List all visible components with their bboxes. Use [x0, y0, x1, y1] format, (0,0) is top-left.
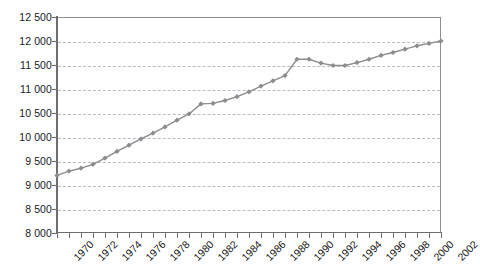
x-axis-tick-label: 1992: [335, 238, 360, 263]
y-axis-tick-label: 8 500: [25, 203, 52, 215]
x-axis-tick-label: 1988: [287, 238, 312, 263]
x-axis-tick-label: 1978: [167, 238, 192, 263]
x-axis-tick-label: 1974: [119, 238, 144, 263]
x-axis-tick-label: 1982: [215, 238, 240, 263]
x-axis-tick-label: 1970: [71, 238, 96, 263]
x-axis-tick-label: 2002: [455, 238, 480, 263]
data-point-marker: [150, 131, 155, 136]
y-axis-labels: 8 0008 5009 0009 50010 00010 50011 00011…: [0, 17, 52, 233]
series-markers: [54, 38, 443, 178]
x-axis-tick-label: 1986: [263, 238, 288, 263]
data-point-marker: [138, 136, 143, 141]
data-point-marker: [258, 84, 263, 89]
data-point-marker: [390, 50, 395, 55]
data-point-marker: [414, 43, 419, 48]
y-axis-tick-label: 9 000: [25, 179, 52, 191]
data-point-marker: [234, 94, 239, 99]
data-point-marker: [246, 89, 251, 94]
y-axis-tick-label: 11 000: [20, 83, 52, 95]
data-point-marker: [342, 63, 347, 68]
x-axis-tick-label: 1980: [191, 238, 216, 263]
x-axis-tick-label: 1990: [311, 238, 336, 263]
x-axis-tick-label: 1976: [143, 238, 168, 263]
data-point-marker: [426, 41, 431, 46]
x-axis-tick-label: 1984: [239, 238, 264, 263]
data-point-marker: [270, 78, 275, 83]
y-axis-tick-label: 9 500: [25, 155, 52, 167]
y-axis-tick-label: 10 000: [19, 131, 52, 143]
data-point-marker: [66, 168, 71, 173]
x-axis-tick-label: 1996: [383, 238, 408, 263]
data-point-marker: [222, 98, 227, 103]
data-point-marker: [402, 47, 407, 52]
series-line: [57, 41, 441, 175]
data-point-marker: [378, 53, 383, 58]
data-point-marker: [438, 38, 443, 43]
data-point-marker: [306, 57, 311, 62]
x-axis-tick-label: 1998: [407, 238, 432, 263]
y-axis-tick-label: 10 500: [19, 107, 52, 119]
data-series: [57, 17, 441, 233]
x-axis-tick-label: 1972: [95, 238, 120, 263]
data-point-marker: [366, 57, 371, 62]
data-point-marker: [90, 162, 95, 167]
data-point-marker: [330, 63, 335, 68]
data-point-marker: [318, 60, 323, 65]
x-axis-labels: 1970197219741976197819801982198419861988…: [57, 238, 441, 275]
data-point-marker: [78, 166, 83, 171]
x-axis-tick: [441, 233, 442, 238]
y-axis-tick-label: 12 000: [19, 35, 52, 47]
data-point-marker: [126, 143, 131, 148]
x-axis-tick-label: 2000: [431, 238, 456, 263]
y-axis-tick-label: 11 500: [20, 59, 52, 71]
data-point-marker: [210, 101, 215, 106]
y-axis-tick-label: 12 500: [19, 11, 52, 23]
data-point-marker: [354, 60, 359, 65]
x-axis-tick-label: 1994: [359, 238, 384, 263]
y-axis-tick-label: 8 000: [25, 227, 52, 239]
